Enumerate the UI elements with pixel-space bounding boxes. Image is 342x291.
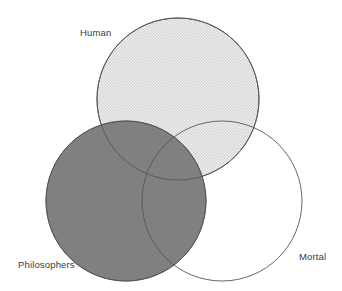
- venn-diagram-figure: Human Philosophers Mortal: [0, 0, 342, 291]
- venn-label-philosophers: Philosophers: [18, 259, 75, 270]
- venn-label-mortal: Mortal: [299, 251, 326, 262]
- venn-circle-philosophers[interactable]: [46, 121, 206, 281]
- venn-diagram-canvas: Human Philosophers Mortal: [0, 0, 342, 291]
- venn-label-human: Human: [80, 27, 111, 38]
